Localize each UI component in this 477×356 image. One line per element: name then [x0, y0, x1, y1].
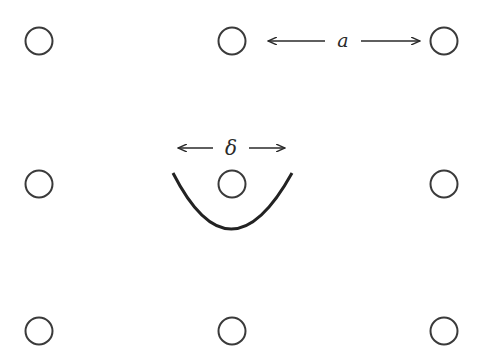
atom-circle-central: [219, 171, 246, 198]
atom-circle: [219, 28, 246, 55]
atom-circle: [26, 318, 53, 345]
spacing-label: a: [337, 29, 348, 51]
lattice-diagram: a δ: [0, 0, 477, 356]
atom-row-bottom: [26, 318, 458, 345]
atom-circle: [26, 28, 53, 55]
atom-circle: [26, 171, 53, 198]
atom-circle: [431, 171, 458, 198]
atom-circle: [431, 318, 458, 345]
potential-well-curve: [173, 173, 292, 229]
well-width-label: δ: [225, 136, 237, 160]
atom-circle: [431, 28, 458, 55]
atom-circle: [219, 318, 246, 345]
atom-row-middle: [26, 171, 458, 198]
